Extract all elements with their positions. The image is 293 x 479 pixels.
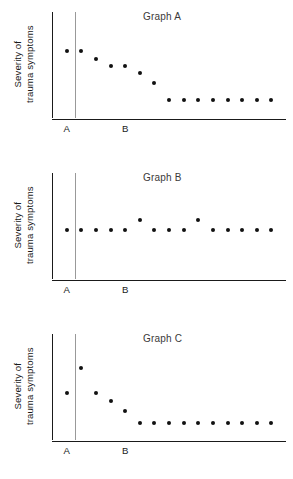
data-point	[269, 98, 273, 102]
data-point	[255, 98, 259, 102]
data-point	[255, 421, 259, 425]
phase-change-line	[75, 173, 76, 279]
data-point	[182, 228, 186, 232]
data-point	[211, 98, 215, 102]
data-point	[138, 71, 142, 75]
y-axis-line	[52, 12, 53, 118]
data-point	[167, 98, 171, 102]
data-point	[152, 81, 156, 85]
data-point	[152, 228, 156, 232]
x-axis-line	[52, 119, 286, 120]
data-point	[94, 228, 98, 232]
data-point	[109, 64, 113, 68]
data-point	[255, 228, 259, 232]
data-point	[226, 421, 230, 425]
data-point	[123, 64, 127, 68]
data-point	[79, 49, 83, 53]
graph-panel-b: Severity of trauma symptoms Graph B A B	[0, 161, 293, 320]
data-point	[211, 421, 215, 425]
phase-label-treatment: B	[122, 284, 128, 295]
data-point	[123, 228, 127, 232]
data-point	[182, 98, 186, 102]
figure-three-single-case-graphs: Severity of trauma symptoms Graph A A B …	[0, 0, 293, 479]
data-point	[269, 228, 273, 232]
phase-label-baseline: A	[63, 123, 69, 134]
data-point	[211, 228, 215, 232]
data-point	[196, 218, 200, 222]
data-point	[65, 228, 69, 232]
data-point	[240, 421, 244, 425]
data-point	[226, 228, 230, 232]
data-point	[240, 228, 244, 232]
data-point	[109, 399, 113, 403]
data-point	[196, 421, 200, 425]
data-point	[269, 421, 273, 425]
phase-label-baseline: A	[63, 445, 69, 456]
x-axis-line	[52, 280, 286, 281]
data-point	[123, 409, 127, 413]
data-point	[94, 391, 98, 395]
data-point	[196, 98, 200, 102]
y-axis-line	[52, 334, 53, 440]
y-axis-label: Severity of trauma symptoms	[12, 331, 36, 441]
graph-panel-c: Severity of trauma symptoms Graph C A B	[0, 322, 293, 479]
data-point	[79, 366, 83, 370]
plot-area	[52, 334, 286, 442]
data-point	[65, 391, 69, 395]
phase-label-baseline: A	[63, 284, 69, 295]
graph-panel-a: Severity of trauma symptoms Graph A A B	[0, 0, 293, 159]
data-point	[240, 98, 244, 102]
data-point	[182, 421, 186, 425]
phase-change-line	[75, 334, 76, 440]
plot-area	[52, 12, 286, 120]
data-point	[65, 49, 69, 53]
data-point	[167, 421, 171, 425]
data-point	[152, 421, 156, 425]
y-axis-label: Severity of trauma symptoms	[12, 9, 36, 119]
data-point	[109, 228, 113, 232]
data-point	[138, 218, 142, 222]
phase-label-treatment: B	[122, 123, 128, 134]
y-axis-line	[52, 173, 53, 279]
data-point	[79, 228, 83, 232]
data-point	[167, 228, 171, 232]
data-point	[226, 98, 230, 102]
phase-change-line	[75, 12, 76, 118]
x-axis-line	[52, 441, 286, 442]
data-point	[94, 57, 98, 61]
phase-label-treatment: B	[122, 445, 128, 456]
plot-area	[52, 173, 286, 281]
data-point	[138, 421, 142, 425]
y-axis-label: Severity of trauma symptoms	[12, 170, 36, 280]
